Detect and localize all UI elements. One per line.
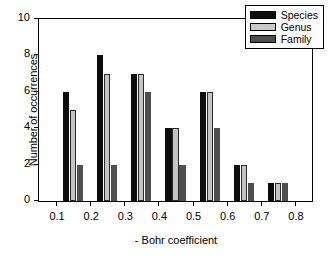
y-axis-tick: 4 (34, 127, 39, 128)
legend-item-species: Species (250, 9, 318, 21)
bar-family (145, 92, 151, 201)
y-axis-tick: 6 (34, 91, 39, 92)
chart-legend: Species Genus Family (245, 5, 324, 49)
y-axis-tick: 0 (34, 200, 39, 201)
bar-family (282, 183, 288, 201)
bar-species (63, 92, 69, 201)
x-axis-tick: 0.7 (261, 201, 262, 206)
y-axis-tick-label: 6 (24, 84, 30, 96)
bar-genus (104, 74, 110, 201)
bar-family (248, 183, 254, 201)
legend-label-species: Species (281, 10, 318, 21)
bar-family (214, 128, 220, 201)
bar-species (131, 74, 137, 201)
bar-species (165, 128, 171, 201)
bar-species (200, 92, 206, 201)
x-axis-tick: 0.3 (124, 201, 125, 206)
x-axis-tick-label: 0.3 (111, 210, 139, 222)
legend-label-genus: Genus (281, 22, 312, 33)
y-axis-tick: 10 (34, 18, 39, 19)
y-axis-tick: 2 (34, 164, 39, 165)
x-axis-tick: 0.6 (227, 201, 228, 206)
bar-genus (138, 74, 144, 201)
x-axis-tick: 0.1 (56, 201, 57, 206)
y-axis-tick-label: 0 (24, 193, 30, 205)
legend-swatch-genus-icon (250, 23, 276, 31)
x-axis-tick: 0.8 (295, 201, 296, 206)
y-axis-tick-label: 10 (18, 11, 30, 23)
chart-figure: Number of occurrences 02468100.10.20.30.… (0, 0, 330, 259)
legend-swatch-species-icon (250, 11, 276, 19)
y-axis-tick-label: 2 (24, 157, 30, 169)
x-axis-tick-label: 0.5 (180, 210, 208, 222)
x-axis-tick-label: 0.8 (282, 210, 310, 222)
x-axis-tick-label: 0.2 (77, 210, 105, 222)
x-axis-tick-label: 0.1 (43, 210, 71, 222)
bar-genus (207, 92, 213, 201)
x-axis-tick-label: 0.7 (248, 210, 276, 222)
bar-family (179, 165, 185, 201)
bar-species (268, 183, 274, 201)
x-axis-tick: 0.4 (158, 201, 159, 206)
y-axis-tick: 8 (34, 54, 39, 55)
bar-species (97, 55, 103, 201)
y-axis-tick-label: 8 (24, 47, 30, 59)
bar-genus (275, 183, 281, 201)
y-axis-tick-label: 4 (24, 120, 30, 132)
bar-family (111, 165, 117, 201)
x-axis-tick: 0.2 (90, 201, 91, 206)
legend-swatch-family-icon (250, 35, 276, 43)
bar-species (234, 165, 240, 201)
legend-label-family: Family (281, 34, 312, 45)
bar-genus (70, 110, 76, 201)
bar-family (77, 165, 83, 201)
x-axis-tick: 0.5 (193, 201, 194, 206)
legend-item-genus: Genus (250, 21, 318, 33)
x-axis-tick-label: 0.4 (145, 210, 173, 222)
bar-genus (172, 128, 178, 201)
x-axis-tick-label: 0.6 (214, 210, 242, 222)
bar-genus (241, 165, 247, 201)
legend-item-family: Family (250, 33, 318, 45)
x-axis-label: - Bohr coefficient (38, 234, 314, 246)
